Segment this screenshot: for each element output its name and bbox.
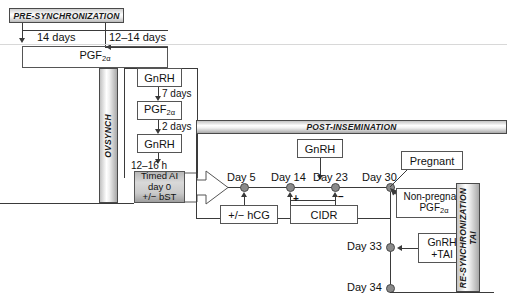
ovsynch-gnrh-2-label: GnRH [144,138,175,150]
day-34-label: Day 34 [347,281,382,293]
pre-synchronization-banner: PRE-SYNCHRONIZATION [9,8,124,23]
hcg-stem [244,196,245,205]
pregnant-label: Pregnant [410,155,455,167]
resync-line-2: TAI [467,231,477,245]
hcg-label: +/− hCG [228,209,270,221]
gnrh-tai-line-2: +TAI [431,248,453,260]
background-guide-rule [0,44,507,45]
presync-right-corner [167,47,168,48]
presync-left-stem [22,23,23,30]
cidr-box: CIDR [290,205,358,224]
ovsynch-label: OVSYNCH [104,114,114,157]
timed-ai-box: Timed AI day 0 +/− bST [134,171,185,203]
ovsynch-interval-7days-label: 7 days [162,88,191,100]
post-insem-gnrh-top-rule [320,139,343,140]
nonpregnant-pgf-subscript: 2α [440,205,449,214]
ovsynch-pgf-label: PGF2α [144,103,175,119]
pregnant-box: Pregnant [401,151,463,170]
gnrh-tai-stem [400,248,418,249]
resync-line-1: RE-SYNCHRONIZATION [458,187,468,287]
post-insem-left-bracket [196,134,197,218]
post-insemination-bar: POST-INSEMINATION [196,120,507,134]
resync-bottom-rail [390,292,494,293]
cidr-remove-stem [335,196,336,205]
presync-pgf-subscript: 2α [102,54,111,63]
cidr-insert-arrowhead [287,192,293,197]
timed-ai-line-3: +/− bST [143,192,177,203]
pre-synchronization-label: PRE-SYNCHRONIZATION [13,11,119,21]
presync-right-rail [105,47,168,48]
presync-pgf-label: PGF2α [79,49,110,65]
day-33-node [386,243,395,252]
day-5-node [240,183,249,192]
presync-interval-left-label: 14 days [37,31,76,43]
presync-interval-right-label: 12–14 days [109,31,166,43]
cidr-remove-sign: − [338,191,344,203]
cidr-remove-arrowhead [332,192,338,197]
day-5-label: Day 5 [227,171,256,183]
presync-pgf-box: PGF2α [22,46,168,68]
ovsynch-left-bracket [124,68,125,178]
post-insem-gnrh-label: GnRH [305,143,336,155]
ovsynch-interval-2days-label: 2 days [162,121,191,133]
ovsynch-gnrh-1-label: GnRH [144,72,175,84]
post-insemination-label: POST-INSEMINATION [306,122,396,132]
nonpregnant-line-2: PGF2α [419,202,448,216]
ovsynch-pgf-box: PGF2α [137,101,182,120]
gnrh-tai-arrowhead [397,245,402,251]
post-insem-timeline-rail [228,187,395,188]
resync-vertical-rail [390,192,391,288]
resynchronization-pillar: RE-SYNCHRONIZATION TAI [456,183,480,292]
ovsynch-gnrh-1-box: GnRH [137,68,182,87]
funnel-connector-arrow [184,170,230,206]
ovsynch-pgf-subscript: 2α [167,107,176,116]
cidr-insert-stem [290,196,291,205]
gnrh-tai-line-1: GnRH [427,236,456,248]
day-14-node [286,183,295,192]
day-33-label: Day 33 [347,240,382,252]
hcg-arrowhead [241,192,247,197]
day-14-label: Day 14 [271,171,306,183]
post-insem-gnrh-box: GnRH [297,139,343,158]
cidr-insert-sign: + [293,193,299,205]
resynchronization-label: RE-SYNCHRONIZATION TAI [459,187,478,287]
cidr-label: CIDR [311,209,338,221]
ovsynch-resynch-protocol-diagram: PRE-SYNCHRONIZATION 14 days 12–14 days P… [0,0,507,306]
timed-ai-baseline [0,203,134,204]
day-23-label: Day 23 [313,171,348,183]
ovsynch-pillar: OVSYNCH [99,68,118,203]
presync-left-arrowhead [19,38,25,43]
ovsynch-gnrh-2-box: GnRH [137,134,182,153]
hcg-box: +/− hCG [220,205,278,224]
